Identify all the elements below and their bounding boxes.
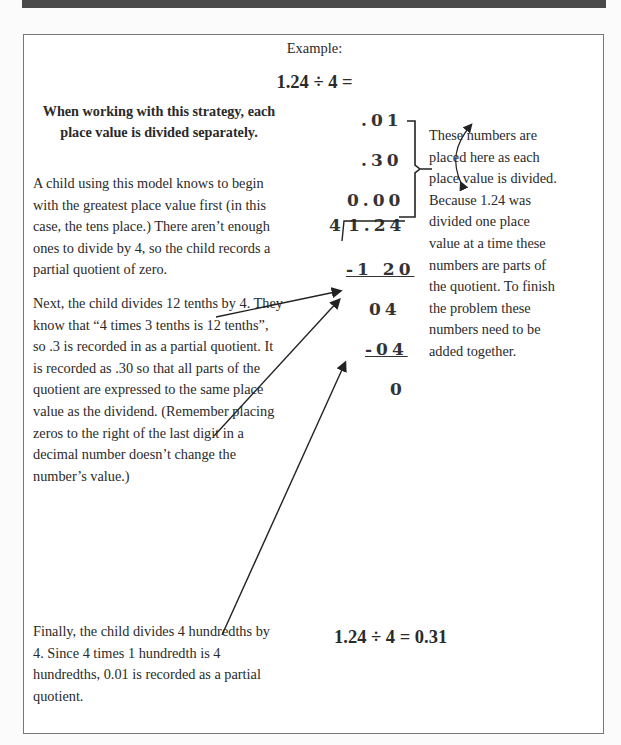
top-banner-bar (22, 0, 606, 8)
bracket-icon (399, 121, 432, 217)
division-bracket-icon (342, 221, 405, 241)
example-box: Example: 1.24 ÷ 4 = When working with th… (23, 34, 604, 734)
arrow-step-1-icon (216, 291, 340, 317)
arrow-step-3-icon (222, 363, 345, 635)
annotation-lines (24, 35, 605, 735)
double-arrow-icon (456, 125, 471, 183)
arrow-step-2-icon (214, 300, 339, 436)
